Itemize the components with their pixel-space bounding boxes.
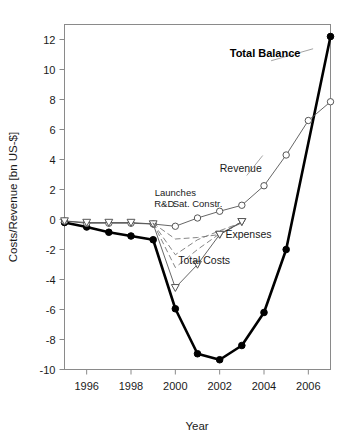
chart-figure: 121086420-2-4-6-8-10 1996199820002002200…	[0, 0, 349, 441]
data-point-marker	[261, 183, 267, 189]
y-tick-label: -4	[46, 274, 56, 286]
y-tick-label: 6	[49, 124, 55, 136]
annotation-label-revenue: Revenue	[220, 162, 262, 174]
annotation-label-total-costs: Total Costs	[178, 254, 230, 266]
x-tick-label: 1998	[119, 380, 143, 392]
data-point-marker	[283, 152, 289, 158]
x-tick-label: 2000	[163, 380, 187, 392]
annotation-label-total-balance: Total Balance	[230, 47, 301, 59]
data-point-marker	[106, 229, 113, 236]
data-point-marker	[239, 342, 246, 349]
y-tick-label: 2	[49, 184, 55, 196]
data-point-marker	[216, 356, 223, 363]
data-point-marker	[194, 350, 201, 357]
annotation-label-launches: Launches	[155, 187, 196, 198]
y-tick-label: -6	[46, 304, 56, 316]
y-tick-label: 8	[49, 94, 55, 106]
annotation-label-sat-constr: Sat. Constr.	[173, 198, 223, 209]
data-point-marker	[327, 33, 334, 40]
y-tick-label: 12	[43, 34, 55, 46]
data-point-marker	[239, 202, 245, 208]
data-point-marker	[261, 309, 268, 316]
x-tick-label: 2002	[207, 380, 231, 392]
annotation-label-r-d: R&D	[154, 198, 174, 209]
data-point-marker	[283, 246, 290, 253]
x-tick-label: 2004	[252, 380, 276, 392]
annotation-label-expenses: Expenses	[225, 228, 271, 240]
y-tick-label: 0	[49, 214, 55, 226]
data-point-marker	[172, 305, 179, 312]
data-point-marker	[172, 223, 178, 229]
y-tick-label: -2	[46, 244, 56, 256]
x-axis-title: Year	[185, 420, 208, 432]
data-point-marker	[216, 208, 222, 214]
x-tick-label: 1996	[74, 380, 98, 392]
y-tick-label: -10	[40, 364, 56, 376]
y-tick-label: 10	[43, 64, 55, 76]
data-point-marker	[194, 215, 200, 221]
data-point-marker	[150, 236, 157, 243]
data-point-marker	[305, 117, 311, 123]
data-point-marker	[327, 99, 333, 105]
costs-revenue-line-chart: 121086420-2-4-6-8-10 1996199820002002200…	[0, 0, 349, 441]
y-tick-label: 4	[49, 154, 55, 166]
data-point-marker	[128, 233, 135, 240]
x-tick-label: 2006	[296, 380, 320, 392]
y-axis-title: Costs/Revenue [bn US-$]	[7, 132, 19, 262]
y-tick-label: -8	[46, 334, 56, 346]
